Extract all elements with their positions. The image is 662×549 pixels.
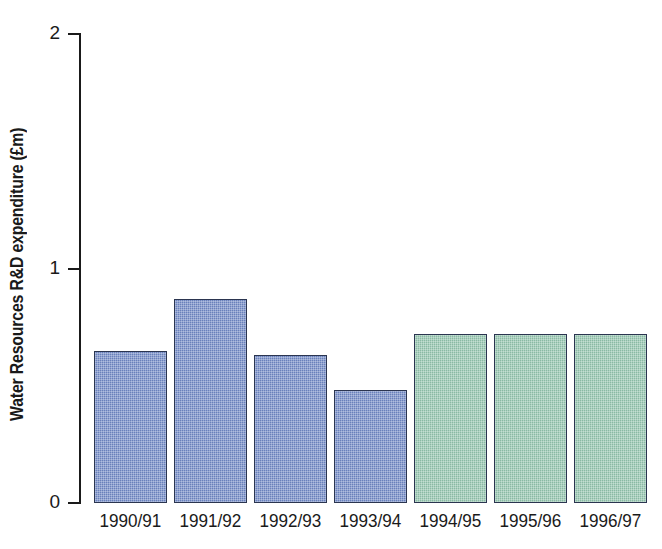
x-axis-tick-label-text: 1994/95 xyxy=(420,511,482,532)
x-axis-tick-label-text: 1996/97 xyxy=(580,511,642,532)
x-axis-tick-label: 1995/96 xyxy=(490,511,571,532)
x-axis-tick-label-text: 1991/92 xyxy=(180,511,242,532)
bar xyxy=(174,299,247,503)
bar xyxy=(414,334,487,503)
x-axis-tick-label-text: 1990/91 xyxy=(100,511,162,532)
x-axis-tick-label-text: 1993/94 xyxy=(340,511,402,532)
x-axis-tick-label: 1990/91 xyxy=(90,511,171,532)
x-axis-tick-label: 1994/95 xyxy=(410,511,491,532)
bar xyxy=(334,390,407,503)
x-axis-tick-label: 1991/92 xyxy=(170,511,251,532)
x-axis-tick-label: 1996/97 xyxy=(570,511,651,532)
bar xyxy=(494,334,567,503)
bar xyxy=(574,334,647,503)
x-axis-tick-label: 1993/94 xyxy=(330,511,411,532)
bar-chart: Water Resources R&D expenditure (£m) 210… xyxy=(0,0,662,549)
x-axis-tick-label-text: 1992/93 xyxy=(260,511,322,532)
bar xyxy=(94,351,167,503)
bar xyxy=(254,355,327,503)
x-axis-tick-label-text: 1995/96 xyxy=(500,511,562,532)
x-axis-labels: 1990/911991/921992/931993/941994/951995/… xyxy=(0,511,662,541)
x-axis-tick-label: 1992/93 xyxy=(250,511,331,532)
bars-layer xyxy=(0,0,662,549)
